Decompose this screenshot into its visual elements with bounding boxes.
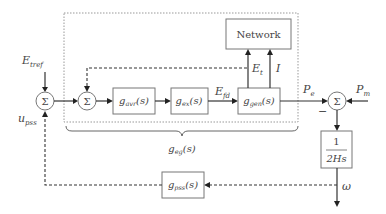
block-g-avr: gavr(s): [113, 88, 155, 114]
e-fd-label: Efd: [214, 85, 231, 100]
g-eg-brace: [66, 126, 298, 136]
omega-label: ω: [342, 180, 351, 193]
svg-text:Etref: Etref: [21, 54, 44, 69]
p-m-label: Pm: [355, 83, 370, 98]
summing-junction-2: Σ: [78, 92, 96, 110]
block-g-pss: gpss(s): [162, 172, 204, 198]
svg-text:2Hs: 2Hs: [325, 153, 346, 164]
block-network: Network: [226, 19, 291, 49]
summing-junction-3: Σ: [328, 92, 346, 110]
u-pss-label: upss: [18, 112, 37, 127]
svg-text:Network: Network: [236, 29, 281, 40]
sigma-icon: Σ: [333, 96, 340, 107]
sigma-icon: Σ: [83, 96, 90, 107]
diagram-canvas: Etref Σ upss Σ gavr(s) gex(s) Efd ggen(s…: [0, 0, 386, 214]
e-tref-label: E: [21, 54, 30, 67]
block-inertia: 1 2Hs: [321, 131, 352, 168]
block-g-ex: gex(s): [171, 88, 208, 114]
g-eg-label: geg(s): [168, 143, 195, 156]
e-t-label: Et: [251, 62, 263, 77]
svg-text:1: 1: [333, 136, 339, 147]
block-diagram: Etref Σ upss Σ gavr(s) gex(s) Efd ggen(s…: [0, 0, 386, 214]
sigma-icon: Σ: [41, 96, 48, 107]
u-pss-feedback: [45, 116, 162, 185]
minus-sign: −: [318, 105, 327, 118]
block-g-gen: ggen(s): [238, 88, 280, 114]
i-label: I: [275, 62, 281, 75]
p-e-label: Pe: [302, 83, 315, 98]
summing-junction-1: Σ: [36, 92, 54, 110]
e-tref-input: Etref: [21, 54, 48, 92]
